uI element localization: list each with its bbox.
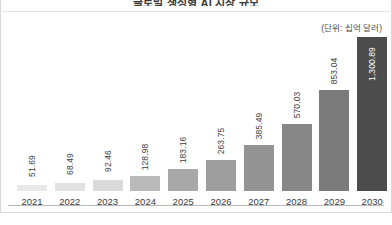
bar-group-2025: 183.16 xyxy=(168,14,198,191)
bar-2029 xyxy=(319,90,349,191)
bar-value-label-2024: 128.98 xyxy=(140,143,150,170)
x-tick-2028: 2028 xyxy=(278,196,316,207)
bar-group-2021: 51.69 xyxy=(17,14,47,191)
bar-value-label-2029: 853.04 xyxy=(329,58,339,85)
bar-value-label-2028: 570.03 xyxy=(292,91,302,118)
x-tick-2029: 2029 xyxy=(315,196,353,207)
bar-value-label-2025: 183.16 xyxy=(178,137,188,164)
bar-value-label-2027: 385.49 xyxy=(254,113,264,140)
bar-2025 xyxy=(168,169,198,191)
bar-group-2027: 385.49 xyxy=(244,14,274,191)
bar-group-2028: 570.03 xyxy=(282,14,312,191)
plot-area: 51.6968.4992.46128.98183.16263.75385.495… xyxy=(0,14,392,191)
x-tick-2021: 2021 xyxy=(13,196,51,207)
bar-group-2030: 1,300.89 xyxy=(357,14,387,191)
bar-value-label-2022: 68.49 xyxy=(65,153,75,175)
bar-value-label-2030: 1,300.89 xyxy=(367,47,377,81)
bar-group-2024: 128.98 xyxy=(130,14,160,191)
bar-2024 xyxy=(130,176,160,191)
frame-bottom-divider xyxy=(0,212,392,213)
chart-title: 글로벌 생성형 AI 시장 규모 xyxy=(0,0,392,6)
x-tick-2025: 2025 xyxy=(164,196,202,207)
bar-group-2023: 92.46 xyxy=(93,14,123,191)
x-tick-2023: 2023 xyxy=(89,196,127,207)
chart-figure: 글로벌 생성형 AI 시장 규모 (단위: 십억 달러) 51.6968.499… xyxy=(0,0,392,225)
bar-2026 xyxy=(206,160,236,191)
x-tick-2026: 2026 xyxy=(202,196,240,207)
x-tick-2022: 2022 xyxy=(51,196,89,207)
bar-value-label-2026: 263.75 xyxy=(216,127,226,154)
x-tick-2024: 2024 xyxy=(126,196,164,207)
bar-group-2029: 853.04 xyxy=(319,14,349,191)
bar-2028 xyxy=(282,124,312,191)
bar-value-label-2023: 92.46 xyxy=(103,150,113,172)
bar-2030: 1,300.89 xyxy=(357,37,387,191)
bar-group-2026: 263.75 xyxy=(206,14,236,191)
bar-2023 xyxy=(93,180,123,191)
frame-top-divider xyxy=(0,11,392,12)
bar-2022 xyxy=(55,183,85,191)
bar-group-2022: 68.49 xyxy=(55,14,85,191)
bar-2021 xyxy=(17,185,47,191)
bar-value-label-2021: 51.69 xyxy=(27,155,37,177)
x-axis-tick-labels: 2021202220232024202520262027202820292030 xyxy=(0,196,392,212)
bar-2027 xyxy=(244,145,274,191)
x-tick-2027: 2027 xyxy=(240,196,278,207)
x-tick-2030: 2030 xyxy=(353,196,391,207)
